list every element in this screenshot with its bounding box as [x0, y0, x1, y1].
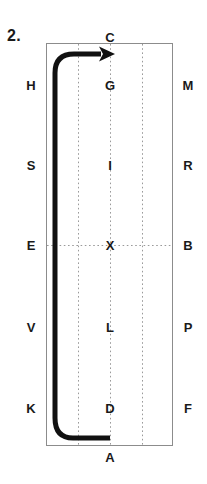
node-label-X: X [106, 239, 115, 252]
node-label-C: C [105, 31, 114, 44]
node-label-B: B [183, 239, 192, 252]
node-label-H: H [26, 79, 35, 92]
figure-index-label: 2. [7, 28, 21, 44]
node-label-P: P [184, 321, 193, 334]
node-label-E: E [27, 239, 36, 252]
node-label-D: D [105, 402, 114, 415]
node-label-K: K [26, 402, 35, 415]
node-label-M: M [183, 79, 194, 92]
node-label-L: L [106, 321, 114, 334]
node-label-A: A [105, 451, 114, 464]
node-label-G: G [105, 79, 115, 92]
node-label-F: F [184, 402, 192, 415]
node-label-R: R [183, 159, 192, 172]
node-label-V: V [27, 321, 36, 334]
figure-canvas: 2. C A H S E V K M R B P F G I X L D [0, 0, 207, 484]
node-label-S: S [27, 159, 36, 172]
node-label-I: I [108, 159, 112, 172]
